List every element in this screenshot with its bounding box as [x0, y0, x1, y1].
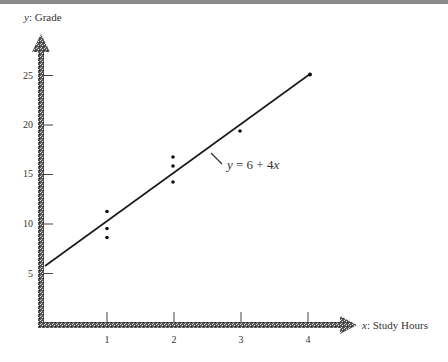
scatter-chart: y: Grade x: Study Hours 5 10 15 20 25 1 … — [0, 0, 448, 362]
data-point — [105, 227, 109, 231]
x-tick-label: 4 — [306, 334, 311, 345]
y-axis-label: y: Grade — [23, 11, 62, 23]
y-tick-label: 20 — [23, 119, 33, 130]
y-tick-label: 5 — [28, 268, 33, 279]
data-points — [105, 73, 312, 240]
x-axis-arrow-icon — [340, 316, 357, 334]
y-axis — [32, 34, 50, 328]
data-point — [105, 210, 109, 214]
y-tick-label: 15 — [23, 168, 33, 179]
y-ticks — [44, 76, 53, 274]
y-axis-arrow-icon — [32, 34, 50, 52]
data-point — [308, 73, 312, 77]
x-axis-label: x: Study Hours — [361, 319, 428, 331]
x-tick-label: 3 — [239, 334, 244, 345]
y-tick-label: 25 — [23, 70, 33, 81]
y-tick-labels: 5 10 15 20 25 — [23, 70, 33, 279]
annotation-leader-line — [211, 153, 222, 164]
x-ticks — [107, 312, 308, 322]
data-point — [171, 180, 175, 184]
x-tick-labels: 1 2 3 4 — [105, 334, 311, 345]
x-tick-label: 2 — [172, 334, 177, 345]
data-point — [105, 236, 109, 240]
data-point — [171, 155, 175, 159]
x-axis — [38, 316, 357, 334]
data-point — [171, 164, 175, 168]
y-tick-label: 10 — [23, 218, 33, 229]
data-point — [238, 129, 242, 133]
regression-equation: y = 6 + 4x — [225, 157, 279, 172]
x-tick-label: 1 — [105, 334, 110, 345]
